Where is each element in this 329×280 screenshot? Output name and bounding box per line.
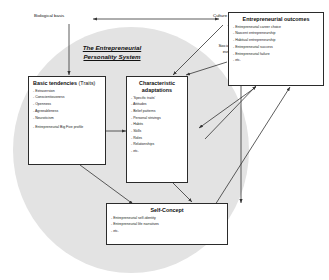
list-item: Openness [33, 103, 102, 107]
list-item: Entrepreneurial life narratives [111, 223, 224, 227]
box-self-concept-title: Self-Concept [107, 204, 227, 215]
arrow-self-concept-to-outcomes [215, 87, 290, 205]
list-item: Attitudes [131, 103, 184, 107]
arrow-characteristic-adaptations-to-self-concept [173, 183, 192, 202]
label-biological-basis: Biological basis [34, 13, 64, 19]
arrow-social-ecology-to-characteristic-adaptations [186, 62, 227, 75]
list-item: Skills [131, 130, 184, 134]
system-title-line1: The Entrepreneurial [83, 44, 141, 53]
box-basic-tendencies-title: Basic tendencies (Traits) [29, 77, 105, 88]
list-item: Entrepreneurial career choice [233, 26, 320, 30]
system-title: The Entrepreneurial Personality System [56, 44, 168, 62]
arrow-characteristic-adaptations-to-outcomes [205, 86, 256, 139]
list-item: Extraversion [33, 90, 102, 94]
list-item: Relationships [131, 143, 184, 147]
box-self-concept[interactable]: Self-Concept Entrepreneurial self-identi… [106, 203, 228, 245]
system-title-line2: Personality System [83, 53, 140, 62]
box-basic-tendencies-title-bold: Basic tendencies [33, 80, 77, 86]
label-culture: Culture [213, 13, 227, 19]
diagram-canvas: Biological basis Culture Social ecology … [0, 0, 329, 280]
list-item: etc. [131, 150, 184, 154]
box-basic-tendencies[interactable]: Basic tendencies (Traits) Extraversion C… [28, 76, 106, 165]
list-item: etc. [233, 59, 320, 63]
list-item: Roles [131, 137, 184, 141]
list-item: Entrepreneurial success [233, 46, 320, 50]
box-characteristic-adaptations-title-line2: adaptations [142, 87, 172, 93]
list-item: Entrepreneurial failure [233, 53, 320, 57]
box-characteristic-adaptations[interactable]: Characteristic adaptations 'Specific tra… [126, 76, 188, 183]
box-entrepreneurial-outcomes-list: Entrepreneurial career choice Nascent en… [229, 24, 323, 69]
list-item: Nascent entrepreneurship [233, 32, 320, 36]
box-basic-tendencies-title-regular: (Traits) [77, 80, 95, 86]
list-item: Entrepreneurial self-identity [111, 217, 224, 221]
box-characteristic-adaptations-list: 'Specific traits' Attitudes Belief patte… [127, 95, 187, 160]
box-entrepreneurial-outcomes[interactable]: Entrepreneurial outcomes Entrepreneurial… [228, 12, 324, 86]
list-item: Habits [131, 123, 184, 127]
box-entrepreneurial-outcomes-title: Entrepreneurial outcomes [229, 13, 323, 24]
box-basic-tendencies-list: Extraversion Conscientiousness Openness … [29, 88, 105, 136]
list-item: Belief patterns [131, 110, 184, 114]
list-item: Neuroticism [33, 117, 102, 121]
list-item: Entrepreneurial Big Five profile [33, 126, 102, 130]
arrow-outcomes-to-characteristic-adaptations [199, 87, 256, 128]
list-item: Habitual entrepreneurship [233, 39, 320, 43]
list-item: etc. [111, 230, 224, 234]
list-item: Personal strivings [131, 117, 184, 121]
list-item: Conscientiousness [33, 96, 102, 100]
box-characteristic-adaptations-title-line1: Characteristic [139, 80, 175, 86]
box-self-concept-list: Entrepreneurial self-identity Entreprene… [107, 215, 227, 240]
list-item: 'Specific traits' [131, 97, 184, 101]
box-characteristic-adaptations-title: Characteristic adaptations [127, 77, 187, 95]
list-item: Agreeableness [33, 110, 102, 114]
